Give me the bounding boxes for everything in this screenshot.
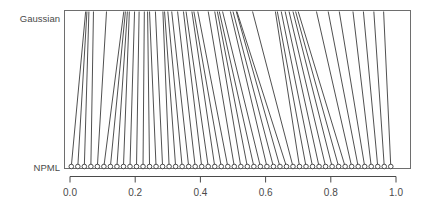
- npml-point-marker: [304, 164, 309, 169]
- npml-point-marker: [89, 164, 94, 169]
- npml-point-marker: [252, 164, 257, 169]
- npml-point-marker: [167, 164, 172, 169]
- npml-point-marker: [375, 164, 380, 169]
- npml-point-marker: [95, 164, 100, 169]
- npml-point-marker: [239, 164, 244, 169]
- row-label-npml: NPML: [34, 162, 60, 173]
- npml-point-marker: [173, 164, 178, 169]
- npml-point-marker: [121, 164, 126, 169]
- npml-point-marker: [323, 164, 328, 169]
- row-label-gaussian: Gaussian: [20, 13, 60, 24]
- npml-point-marker: [206, 164, 211, 169]
- npml-point-marker: [369, 164, 374, 169]
- npml-point-marker: [271, 164, 276, 169]
- npml-point-marker: [154, 164, 159, 169]
- npml-point-marker: [317, 164, 322, 169]
- npml-point-marker: [141, 164, 146, 169]
- npml-point-marker: [76, 164, 81, 169]
- x-axis-tick-label: 0.6: [259, 187, 273, 198]
- npml-point-marker: [291, 164, 296, 169]
- x-axis-tick-label: 0.0: [63, 187, 77, 198]
- npml-point-marker: [382, 164, 387, 169]
- npml-point-marker: [128, 164, 133, 169]
- npml-point-marker: [115, 164, 120, 169]
- npml-point-marker: [193, 164, 198, 169]
- npml-point-marker: [278, 164, 283, 169]
- npml-point-marker: [186, 164, 191, 169]
- npml-point-marker: [212, 164, 217, 169]
- npml-point-marker: [219, 164, 224, 169]
- npml-point-marker: [160, 164, 165, 169]
- npml-point-marker: [356, 164, 361, 169]
- npml-point-marker: [258, 164, 263, 169]
- npml-point-marker: [102, 164, 107, 169]
- npml-point-marker: [330, 164, 335, 169]
- npml-point-marker: [69, 164, 74, 169]
- npml-point-marker: [199, 164, 204, 169]
- x-axis-tick-label: 0.2: [128, 187, 142, 198]
- npml-point-marker: [232, 164, 237, 169]
- x-axis-tick-label: 0.4: [193, 187, 207, 198]
- npml-point-marker: [134, 164, 139, 169]
- npml-point-marker: [245, 164, 250, 169]
- npml-point-marker: [265, 164, 270, 169]
- x-axis-tick-label: 0.8: [324, 187, 338, 198]
- npml-point-marker: [297, 164, 302, 169]
- npml-point-marker: [284, 164, 289, 169]
- npml-point-marker: [362, 164, 367, 169]
- npml-point-marker: [180, 164, 185, 169]
- plot-container: 0.00.20.40.60.81.0 Gaussian NPML: [0, 0, 427, 208]
- npml-point-marker: [388, 164, 393, 169]
- npml-point-marker: [336, 164, 341, 169]
- npml-point-marker: [108, 164, 113, 169]
- connection-plot: 0.00.20.40.60.81.0 Gaussian NPML: [0, 0, 427, 208]
- npml-point-marker: [343, 164, 348, 169]
- npml-point-marker: [225, 164, 230, 169]
- npml-point-marker: [349, 164, 354, 169]
- x-axis-tick-label: 1.0: [389, 187, 403, 198]
- npml-point-marker: [82, 164, 87, 169]
- npml-point-marker: [147, 164, 152, 169]
- npml-point-marker: [310, 164, 315, 169]
